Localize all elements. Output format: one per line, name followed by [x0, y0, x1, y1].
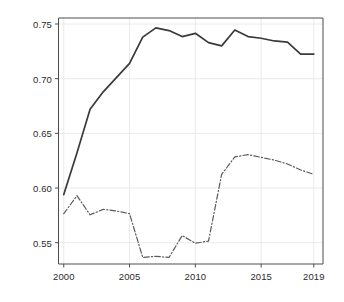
- y-tick-label: 0.65: [8, 128, 52, 139]
- x-tick-label: 2010: [185, 271, 207, 282]
- plot-frame: [59, 18, 324, 264]
- y-tick-label: 0.60: [8, 183, 52, 194]
- data-series-group: [64, 28, 314, 258]
- chart-plot-svg: [0, 0, 344, 302]
- y-tick-label: 0.75: [8, 19, 52, 30]
- x-tick-label: 2005: [119, 271, 141, 282]
- plot-border: [59, 18, 324, 264]
- series-line-solid-series: [64, 28, 314, 195]
- chart-figure: 0.550.600.650.700.75 2000200520102015201…: [0, 0, 344, 302]
- x-tick-label: 2015: [250, 271, 272, 282]
- x-tick-label: 2000: [53, 271, 75, 282]
- series-line-dash-dot-series: [64, 155, 314, 258]
- x-tick-label: 2019: [303, 271, 325, 282]
- axis-ticks: [55, 24, 314, 267]
- y-tick-label: 0.70: [8, 73, 52, 84]
- gridlines-group: [59, 18, 324, 264]
- y-tick-label: 0.55: [8, 237, 52, 248]
